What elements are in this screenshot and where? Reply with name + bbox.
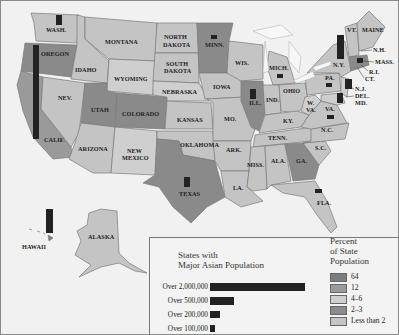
percent-label: 2–3: [351, 305, 362, 314]
label-ill: ILL.: [249, 99, 262, 106]
label-la: LA.: [233, 184, 244, 191]
pop-row-100k: Over 100,000: [150, 323, 208, 335]
label-nh: N.H.: [373, 46, 386, 53]
label-south-dakota-1: SOUTH: [166, 60, 188, 67]
pop-row-200k: Over 200,000: [150, 309, 208, 321]
label-wva-2: VA.: [306, 106, 316, 113]
label-del: DEL.: [355, 92, 370, 99]
label-mo: MO.: [224, 115, 237, 122]
label-ri: R.I.: [369, 68, 380, 75]
label-new-mexico-2: MEXICO: [122, 154, 149, 161]
label-wva-1: W.: [307, 99, 315, 106]
label-mich: MICH.: [269, 64, 289, 71]
label-iowa: IOWA: [213, 83, 231, 90]
label-alaska: ALASKA: [88, 233, 115, 240]
label-ky: KY.: [283, 117, 294, 124]
marker-florida: [315, 189, 322, 193]
legend-title-line2: Major Asian Population: [178, 260, 318, 270]
label-nj: N.J.: [355, 85, 366, 92]
label-hawaii: HAWAII: [22, 243, 46, 250]
label-wis: WIS.: [235, 59, 249, 66]
pop-bar-2m: [210, 283, 305, 291]
percent-title-line3: Population: [330, 256, 369, 266]
state-oregon: [21, 43, 77, 77]
label-ohio: OHIO: [283, 87, 300, 94]
label-mass: MASS.: [375, 58, 395, 65]
pop-bar-100k: [210, 325, 215, 332]
swatch-4-6: [330, 295, 347, 304]
pop-row-label: Over 500,000: [152, 296, 208, 305]
label-minn: MINN.: [205, 41, 225, 48]
label-utah: UTAH: [91, 106, 109, 113]
label-oklahoma: OKLAHOMA: [180, 141, 219, 148]
marker-illinois: [250, 89, 256, 99]
label-kansas: KANSAS: [177, 116, 203, 123]
percent-label: 4–6: [351, 294, 362, 303]
label-new-mexico-1: NEW: [127, 147, 143, 154]
marker-texas: [184, 177, 190, 187]
label-wash: WASH.: [46, 26, 67, 33]
label-ind: IND.: [266, 96, 280, 103]
percent-label: 12: [351, 283, 359, 292]
label-vt: VT.: [347, 26, 357, 33]
state-new-york: [307, 41, 351, 77]
label-montana: MONTANA: [105, 38, 138, 45]
label-md: MD.: [355, 99, 368, 106]
marker-pennsylvania: [326, 83, 332, 87]
label-calif: CALIF.: [44, 136, 65, 143]
pop-row-label: Over 2,000,000: [152, 282, 208, 291]
state-alaska: [75, 209, 147, 277]
label-tenn: TENN.: [268, 134, 288, 141]
marker-virginia: [327, 115, 334, 119]
legend-title-line1: States with: [178, 250, 318, 260]
pop-row-label: Over 200,000: [152, 310, 208, 319]
marker-michigan: [277, 74, 283, 78]
label-pa: PA.: [325, 74, 335, 81]
state-florida: [271, 181, 337, 233]
swatch-12: [330, 284, 347, 293]
percent-title-line2: of State: [330, 246, 369, 256]
label-sc: S.C.: [315, 144, 327, 151]
percent-title-line1: Percent: [330, 236, 369, 246]
marker-washington: [56, 15, 62, 25]
label-colorado: COLORADO: [122, 110, 159, 117]
label-texas: TEXAS: [179, 190, 201, 197]
label-north-dakota-2: DAKOTA: [163, 41, 191, 48]
marker-hawaii: [46, 209, 53, 233]
label-miss: MISS.: [247, 161, 265, 168]
pop-bar-200k: [210, 311, 220, 318]
label-arizona: ARIZONA: [78, 145, 108, 152]
swatch-less-2: [330, 317, 347, 326]
label-wyoming: WYOMING: [114, 75, 148, 82]
label-nev: NEV.: [58, 94, 73, 101]
marker-california: [33, 45, 39, 139]
percent-label: 64: [351, 272, 359, 281]
label-nc: N.C.: [321, 126, 334, 133]
pop-row-2m: Over 2,000,000: [150, 281, 208, 293]
swatch-64: [330, 273, 347, 282]
label-nebraska: NEBRASKA: [162, 88, 198, 95]
label-fla: FLA.: [317, 199, 332, 206]
label-ark: ARK.: [226, 146, 242, 153]
pop-row-500k: Over 500,000: [150, 295, 208, 307]
marker-maryland: [337, 93, 343, 103]
legend-box: States with Major Asian Population Over …: [149, 237, 399, 335]
marker-new-york: [337, 35, 344, 59]
percent-legend-title: Percent of State Population: [330, 236, 369, 266]
label-idaho: IDAHO: [75, 66, 97, 73]
label-oregon: OREGON: [41, 50, 70, 57]
pop-bar-500k: [210, 297, 234, 305]
marker-massachusetts: [357, 58, 363, 63]
marker-minnesota: [211, 35, 217, 39]
swatch-2-3: [330, 306, 347, 315]
label-ct: CT.: [365, 75, 375, 82]
pop-row-label: Over 100,000: [152, 324, 208, 333]
label-ga: GA.: [296, 157, 307, 164]
state-kansas: [165, 101, 213, 129]
legend-title: States with Major Asian Population: [178, 250, 318, 270]
label-south-dakota-2: DAKOTA: [164, 67, 192, 74]
label-ny: N.Y.: [333, 61, 345, 68]
label-va: VA.: [325, 105, 335, 112]
label-ala: ALA.: [271, 157, 286, 164]
percent-label: Less than 2: [351, 316, 385, 325]
